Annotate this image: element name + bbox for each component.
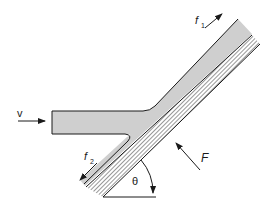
flow1-arrow: [205, 14, 222, 28]
flow1-label: f: [195, 14, 199, 26]
angle-label: θ: [132, 175, 138, 187]
force-arrow: [176, 143, 200, 170]
flow2-label: f: [84, 150, 88, 162]
jet-plate-diagram: v f 1 f 2 F θ: [0, 0, 275, 223]
velocity-label: v: [17, 107, 23, 119]
flow2-subscript: 2: [90, 158, 94, 165]
force-label: F: [201, 151, 209, 165]
fluid-stream: [52, 19, 252, 186]
angle-arc: [141, 160, 153, 193]
flow1-subscript: 1: [201, 22, 205, 29]
